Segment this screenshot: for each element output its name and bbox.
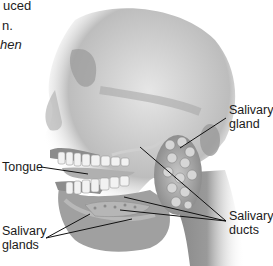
label-salivary-glands-line-2: glands bbox=[2, 238, 46, 252]
label-salivary-ducts-line-2: ducts bbox=[229, 223, 273, 237]
label-tongue: Tongue bbox=[2, 160, 43, 174]
label-salivary-gland-line-2: gland bbox=[229, 117, 273, 131]
label-salivary-gland: Salivary gland bbox=[229, 103, 273, 131]
label-salivary-gland-line-1: Salivary bbox=[229, 103, 273, 117]
label-salivary-glands-line-1: Salivary bbox=[2, 224, 46, 238]
label-salivary-glands: Salivary glands bbox=[2, 224, 46, 252]
label-salivary-ducts-line-1: Salivary bbox=[229, 209, 273, 223]
label-salivary-ducts: Salivary ducts bbox=[229, 209, 273, 237]
